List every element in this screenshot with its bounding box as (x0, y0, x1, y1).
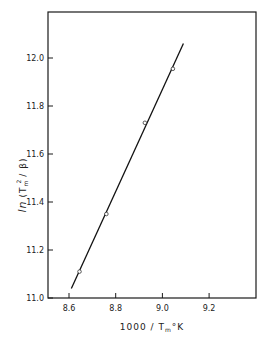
data-series (71, 44, 183, 289)
plot-frame (48, 12, 256, 298)
data-point (143, 121, 147, 125)
data-point (78, 270, 82, 274)
x-tick-label: 9.2 (203, 304, 216, 313)
y-tick-label: 11.8 (26, 102, 44, 111)
y-tick-label: 11.0 (26, 294, 44, 303)
data-point (171, 67, 175, 71)
y-axis-title: ln(Tm2/ β) (15, 158, 29, 213)
data-point (105, 212, 109, 216)
y-tick-label: 11.6 (26, 150, 44, 159)
x-tick-label: 8.8 (109, 304, 122, 313)
x-tick-label: 8.6 (63, 304, 76, 313)
x-tick-label: 9.0 (156, 304, 169, 313)
arrhenius-plot: 8.68.89.09.2 11.011.211.411.611.812.0 10… (0, 0, 267, 340)
fit-line (71, 44, 183, 289)
x-axis-ticks: 8.68.89.09.2 (63, 293, 216, 313)
y-tick-label: 11.2 (26, 246, 44, 255)
x-axis-title: 1000 / Tm°K (120, 322, 185, 333)
y-tick-label: 12.0 (26, 54, 44, 63)
y-axis-ticks: 11.011.211.411.611.812.0 (26, 54, 53, 303)
